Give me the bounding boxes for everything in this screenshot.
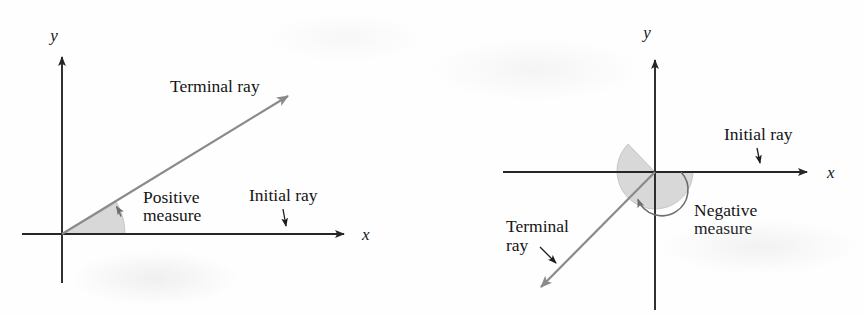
terminal-ray-label-left: Terminal ray	[170, 76, 260, 96]
x-axis-label-right: x	[826, 163, 835, 182]
terminal-ray-pointer-right	[540, 247, 556, 263]
figure-canvas: y x Terminal ray Initial ray Positive me…	[0, 0, 863, 316]
terminal-ray-label-right-line2: ray	[506, 235, 529, 255]
initial-ray-pointer-right	[757, 148, 760, 163]
positive-measure-label-line1: Positive	[143, 187, 200, 207]
initial-ray-pointer-left	[283, 209, 286, 226]
positive-measure-label-line2: measure	[143, 205, 202, 225]
terminal-ray-label-right-line1: Terminal	[506, 216, 569, 236]
positive-measure-diagram: y x Terminal ray Initial ray Positive me…	[22, 26, 370, 283]
initial-ray-label-right: Initial ray	[724, 124, 793, 144]
y-axis-label-left: y	[48, 26, 58, 45]
negative-measure-label-line2: measure	[694, 218, 753, 238]
angle-measure-figure: y x Terminal ray Initial ray Positive me…	[0, 0, 863, 316]
negative-measure-label-line1: Negative	[694, 200, 757, 220]
negative-measure-diagram: y x Terminal ray Initial ray Negative me…	[503, 23, 835, 310]
x-axis-label-left: x	[361, 225, 370, 244]
y-axis-label-right: y	[641, 23, 651, 42]
initial-ray-label-left: Initial ray	[249, 185, 318, 205]
